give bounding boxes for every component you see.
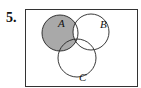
venn-diagram: A B C <box>0 0 141 88</box>
label-c: C <box>79 71 87 83</box>
label-a: A <box>57 17 65 29</box>
label-b: B <box>100 18 107 30</box>
